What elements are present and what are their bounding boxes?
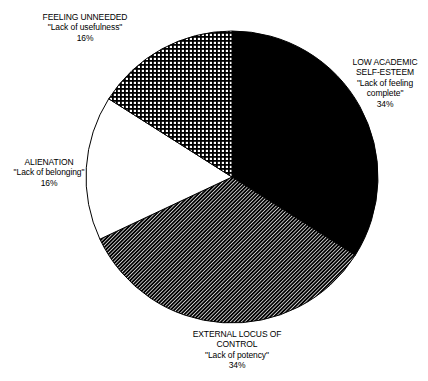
slice-percent: 16% xyxy=(43,33,128,43)
slice-category: ALIENATION xyxy=(14,157,85,167)
slice-percent: 16% xyxy=(14,178,85,188)
slice-percent: 34% xyxy=(353,99,418,109)
slice-label-feeling-unneeded: FEELING UNNEEDED "Lack of usefulness" 16… xyxy=(43,12,128,43)
pie-slices xyxy=(86,31,378,323)
slice-quote-line-2: complete" xyxy=(353,88,418,98)
slice-category-line-1: LOW ACADEMIC xyxy=(353,57,418,67)
slice-label-low-academic-self-esteem: LOW ACADEMIC SELF-ESTEEM "Lack of feelin… xyxy=(353,57,418,109)
pie-figure: FEELING UNNEEDED "Lack of usefulness" 16… xyxy=(0,0,428,381)
slice-label-external-locus-of-control: EXTERNAL LOCUS OF CONTROL "Lack of poten… xyxy=(193,329,282,371)
slice-quote: "Lack of belonging" xyxy=(14,167,85,177)
slice-quote: "Lack of usefulness" xyxy=(43,22,128,32)
slice-percent: 34% xyxy=(193,360,282,370)
slice-category-line-1: EXTERNAL LOCUS OF xyxy=(193,329,282,339)
slice-category-line-2: SELF-ESTEEM xyxy=(353,67,418,77)
slice-category: FEELING UNNEEDED xyxy=(43,12,128,22)
slice-label-alienation: ALIENATION "Lack of belonging" 16% xyxy=(14,157,85,188)
slice-category-line-2: CONTROL xyxy=(193,339,282,349)
slice-quote: "Lack of potency" xyxy=(193,350,282,360)
slice-quote-line-1: "Lack of feeling xyxy=(353,78,418,88)
